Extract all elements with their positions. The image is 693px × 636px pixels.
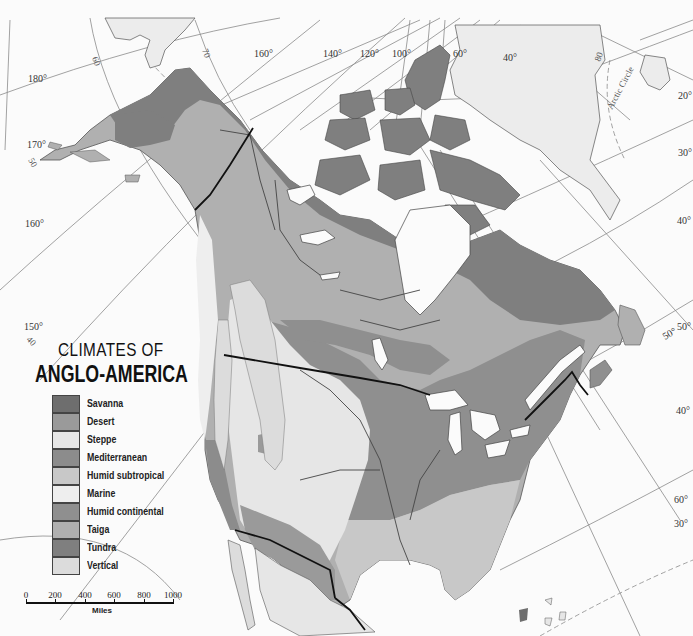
legend-label: Desert	[87, 416, 114, 427]
legend-swatch	[52, 449, 80, 467]
lon-label-120: 120°	[360, 48, 379, 59]
legend-label: Mediterranean	[87, 452, 147, 463]
lon-label-170: 170°	[27, 139, 46, 150]
lat-label-70: 70	[200, 47, 213, 59]
lon-label-40-lower: 40°	[676, 405, 690, 416]
lon-label-100: 100°	[392, 48, 411, 59]
climate-map: 180° 170° 160° 150° 160° 140° 120° 100° …	[0, 0, 693, 636]
scale-tick	[144, 599, 145, 604]
lon-label-160-top: 160°	[254, 48, 273, 59]
legend-swatch	[52, 503, 80, 521]
legend-label: Vertical	[87, 560, 118, 571]
legend-swatch	[52, 557, 80, 575]
lat-label-40: 40	[25, 334, 39, 348]
scale-bar: 0 200 400 600 800 1000 Miles	[20, 590, 180, 620]
siberia-landmass	[105, 18, 195, 68]
legend-label: Steppe	[87, 434, 116, 445]
scale-tick	[114, 599, 115, 604]
iceland-landmass	[640, 55, 670, 90]
legend-label: Tundra	[87, 542, 116, 553]
arctic-circle-label: Arctic Circle	[605, 65, 636, 111]
legend-swatch	[52, 395, 80, 413]
scale-tick	[85, 599, 86, 604]
lat-label-50: 50	[26, 156, 39, 169]
legend-label: Humid continental	[87, 506, 164, 517]
legend-swatch	[52, 539, 80, 557]
legend-swatch	[52, 467, 80, 485]
legend-label: Taiga	[87, 524, 109, 535]
lon-label-40-right: 40°	[677, 215, 691, 226]
scale-line	[26, 602, 173, 604]
legend-swatch	[52, 413, 80, 431]
lon-label-60-lower: 60°	[674, 494, 688, 505]
caribbean-islands	[545, 598, 566, 626]
lon-label-40: 40°	[503, 52, 517, 63]
map-title-line1: CLIMATES OF	[58, 340, 164, 361]
lat-label-60: 60	[90, 55, 103, 67]
legend-swatch	[52, 431, 80, 449]
lon-label-30-lower: 30°	[674, 518, 688, 529]
nova-scotia	[590, 360, 612, 388]
legend-label: Savanna	[87, 398, 123, 409]
lon-label-140: 140°	[323, 48, 342, 59]
lon-label-20: 20°	[678, 90, 692, 101]
florida-savanna	[519, 608, 528, 622]
scale-unit: Miles	[92, 606, 112, 615]
scale-tick	[26, 599, 27, 604]
lon-label-60: 60°	[453, 48, 467, 59]
lon-label-150: 150°	[24, 321, 43, 332]
scale-tick	[55, 599, 56, 604]
lon-label-160: 160°	[25, 218, 44, 229]
lat-label-50-right: 50°	[661, 325, 679, 342]
legend-label: Marine	[87, 488, 115, 499]
baja-california	[228, 540, 255, 630]
legend-swatch	[52, 521, 80, 539]
lon-label-30: 30°	[678, 147, 692, 158]
scale-tick	[173, 599, 174, 604]
legend-label: Humid subtropical	[87, 470, 164, 481]
legend-swatch	[52, 485, 80, 503]
lon-label-50-right: 50°	[677, 321, 691, 332]
lon-label-180: 180°	[28, 73, 47, 84]
map-title-line2: ANGLO-AMERICA	[35, 360, 188, 388]
